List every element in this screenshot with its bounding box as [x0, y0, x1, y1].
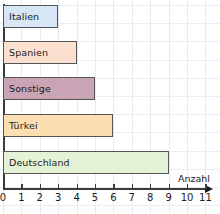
x-tick-label-7: 7	[122, 193, 142, 203]
x-tick-10	[187, 184, 188, 189]
x-tick-4	[77, 184, 78, 189]
x-tick-1	[21, 184, 22, 189]
gridline-vertical	[95, 0, 96, 214]
x-tick-8	[150, 184, 151, 189]
x-tick-label-8: 8	[140, 193, 160, 203]
gridline-vertical	[132, 0, 133, 214]
x-tick-3	[58, 184, 59, 189]
bar-tuerkei[interactable]: Türkei	[3, 114, 113, 137]
bar-chart: Italien Spanien Sonstige Türkei Deutschl…	[0, 0, 220, 214]
gridline-vertical	[150, 0, 151, 214]
x-tick-6	[113, 184, 114, 189]
x-tick-7	[132, 184, 133, 189]
x-tick-label-6: 6	[103, 193, 123, 203]
gridline-vertical	[58, 0, 59, 214]
x-tick-label-10: 10	[177, 193, 197, 203]
bar-label-spanien: Spanien	[4, 48, 48, 58]
x-tick-5	[95, 184, 96, 189]
x-tick-9	[169, 184, 170, 189]
x-tick-2	[40, 184, 41, 189]
x-tick-label-1: 1	[11, 193, 31, 203]
bar-sonstige[interactable]: Sonstige	[3, 77, 95, 100]
bar-deutschland[interactable]: Deutschland	[3, 151, 169, 174]
x-tick-label-9: 9	[159, 193, 179, 203]
gridline-vertical	[77, 0, 78, 214]
x-tick-label-11: 11	[195, 193, 215, 203]
gridline-horizontal	[0, 205, 220, 206]
bar-label-deutschland: Deutschland	[4, 158, 70, 168]
gridline-vertical	[113, 0, 114, 214]
gridline-vertical	[21, 0, 22, 214]
x-tick-label-5: 5	[85, 193, 105, 203]
x-tick-label-3: 3	[48, 193, 68, 203]
x-tick-label-4: 4	[67, 193, 87, 203]
bar-italien[interactable]: Italien	[3, 5, 58, 28]
bar-label-italien: Italien	[4, 12, 39, 22]
bar-label-tuerkei: Türkei	[4, 121, 38, 131]
x-tick-0	[3, 184, 4, 189]
gridline-vertical	[40, 0, 41, 214]
bar-label-sonstige: Sonstige	[4, 84, 51, 94]
x-axis-line	[3, 188, 206, 190]
x-tick-label-2: 2	[30, 193, 50, 203]
x-axis-title: Anzahl	[178, 174, 210, 184]
x-tick-11	[205, 184, 206, 189]
gridline-vertical	[169, 0, 170, 214]
bar-spanien[interactable]: Spanien	[3, 41, 77, 64]
